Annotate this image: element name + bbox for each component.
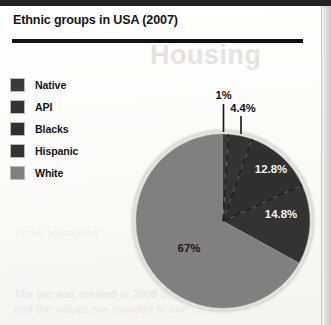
chart-legend: Native API Blacks Hispanic White [10,74,130,184]
pie-value-label-api: 4.4% [230,102,256,114]
legend-label-native: Native [35,79,66,91]
legend-swatch-hispanic [10,144,25,158]
legend-item-white: White [10,162,130,184]
legend-item-hispanic: Hispanic [10,140,130,162]
chart-title: Ethnic groups in USA (2007) [13,13,178,27]
legend-swatch-native [10,78,25,92]
legend-label-blacks: Blacks [35,123,69,135]
pie-chart-svg: 1% 4.4% 12.8% 14.8% 67% [129,86,325,325]
legend-item-native: Native [10,74,130,96]
legend-swatch-white [10,166,25,180]
legend-item-blacks: Blacks [10,118,130,140]
legend-item-api: API [10,96,130,118]
pie-value-label-white: 67% [178,242,201,254]
title-divider [12,39,303,43]
pie-chart: 1% 4.4% 12.8% 14.8% 67% [129,86,325,325]
pie-value-label-blacks: 12.8% [255,163,287,175]
scanned-page: Housing of the population The pie was cr… [0,0,331,325]
page-top-band [0,0,331,6]
legend-swatch-blacks [10,122,25,136]
legend-label-hispanic: Hispanic [35,145,78,157]
legend-swatch-api [10,100,25,114]
pie-value-label-hispanic: 14.8% [265,208,297,220]
page-right-edge [322,6,331,325]
legend-label-white: White [35,167,63,179]
legend-label-api: API [35,101,52,113]
pie-value-label-native: 1% [215,89,231,101]
